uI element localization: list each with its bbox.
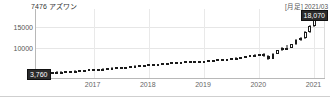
candle-body-down [221,59,224,61]
x-axis-line [35,78,325,79]
candlestick [285,9,288,78]
candle-body-down [120,67,123,69]
candlestick [216,9,219,78]
first-price-badge: 3,760 [27,69,51,80]
candle-body-up [106,68,109,70]
candlestick [262,9,265,78]
candlestick [184,9,187,78]
candlestick [97,9,100,78]
x-axis-tick-label: 2020 [250,81,266,88]
candle-body-down [285,48,288,50]
candlestick [152,9,155,78]
candle-body-up [134,66,137,68]
candlestick [267,9,270,78]
candle-body-up [124,67,127,69]
candlestick [60,9,63,78]
candle-body-down [267,56,270,58]
candle-body-up [111,68,114,70]
candlestick [41,9,44,78]
candle-body-down [198,61,201,63]
candlestick [124,9,127,78]
candlestick [281,9,284,78]
x-axis-tick-label: 2018 [140,81,156,88]
candle-body-down [262,54,265,56]
candlestick [88,9,91,78]
candlestick [161,9,164,78]
candlestick [147,9,150,78]
plot-area[interactable] [35,9,325,78]
x-axis-tick-label: 2019 [195,81,211,88]
candle-body-up [276,50,279,53]
candle-body-up [147,64,150,66]
candle-body-up [92,69,95,71]
candlestick [198,9,201,78]
candlestick [235,9,238,78]
candle-body-up [180,62,183,64]
candle-body-up [184,61,187,63]
candle-body-up [157,64,160,66]
candlestick [64,9,67,78]
candlestick [134,9,137,78]
candlestick [276,9,279,78]
candle-body-down [189,61,192,63]
candlestick [37,9,40,78]
candle-body-up [226,59,229,61]
candlestick [230,9,233,78]
candle-body-up [295,40,298,44]
y-axis: 1000015000 [0,9,33,78]
candle-body-up [230,58,233,60]
candlestick [221,9,224,78]
candle-body-down [152,64,155,66]
candlestick [290,9,293,78]
candle-body-up [249,55,252,57]
candle-body-up [207,60,210,62]
candle-body-up [161,63,164,65]
stock-chart-widget[interactable]: 7476 アズワン [月足] 2021/03 1000015000 201720… [0,0,330,97]
candle-body-down [60,72,63,74]
candle-body-up [253,55,256,57]
candle-body-up [290,44,293,48]
candlestick [272,9,275,78]
candle-body-up [203,61,206,63]
candle-body-up [216,59,219,61]
candlestick [295,9,298,78]
candle-body-up [115,67,118,69]
candle-body-up [69,71,72,73]
candle-body-up [55,72,58,74]
candle-body-up [101,69,104,71]
candlestick [239,9,242,78]
candlestick [138,9,141,78]
candlestick [193,9,196,78]
candlestick [189,9,192,78]
candlestick [157,9,160,78]
candle-body-up [74,71,77,73]
last-price-badge: 18,070 [301,10,328,21]
candlestick [212,9,215,78]
candlestick [166,9,169,78]
candle-body-up [272,54,275,59]
candlestick [226,9,229,78]
candle-body-up [299,38,302,40]
candlestick [244,9,247,78]
candlestick [129,9,132,78]
candlestick [175,9,178,78]
candlestick [106,9,109,78]
candle-body-up [143,65,146,67]
candlestick [46,9,49,78]
candlestick [92,9,95,78]
candlestick [74,9,77,78]
candle-body-up [78,70,81,72]
candle-body-up [64,71,67,73]
candlestick [180,9,183,78]
candlestick [258,9,261,78]
candlestick [253,9,256,78]
candlestick [83,9,86,78]
candle-body-up [212,60,215,62]
candlestick [51,9,54,78]
candle-body-up [239,57,242,59]
x-axis-tick-label: 2017 [85,81,101,88]
candle-body-up [170,62,173,64]
candlestick [249,9,252,78]
y-axis-tick-label: 10000 [14,44,33,51]
candlestick [69,9,72,78]
